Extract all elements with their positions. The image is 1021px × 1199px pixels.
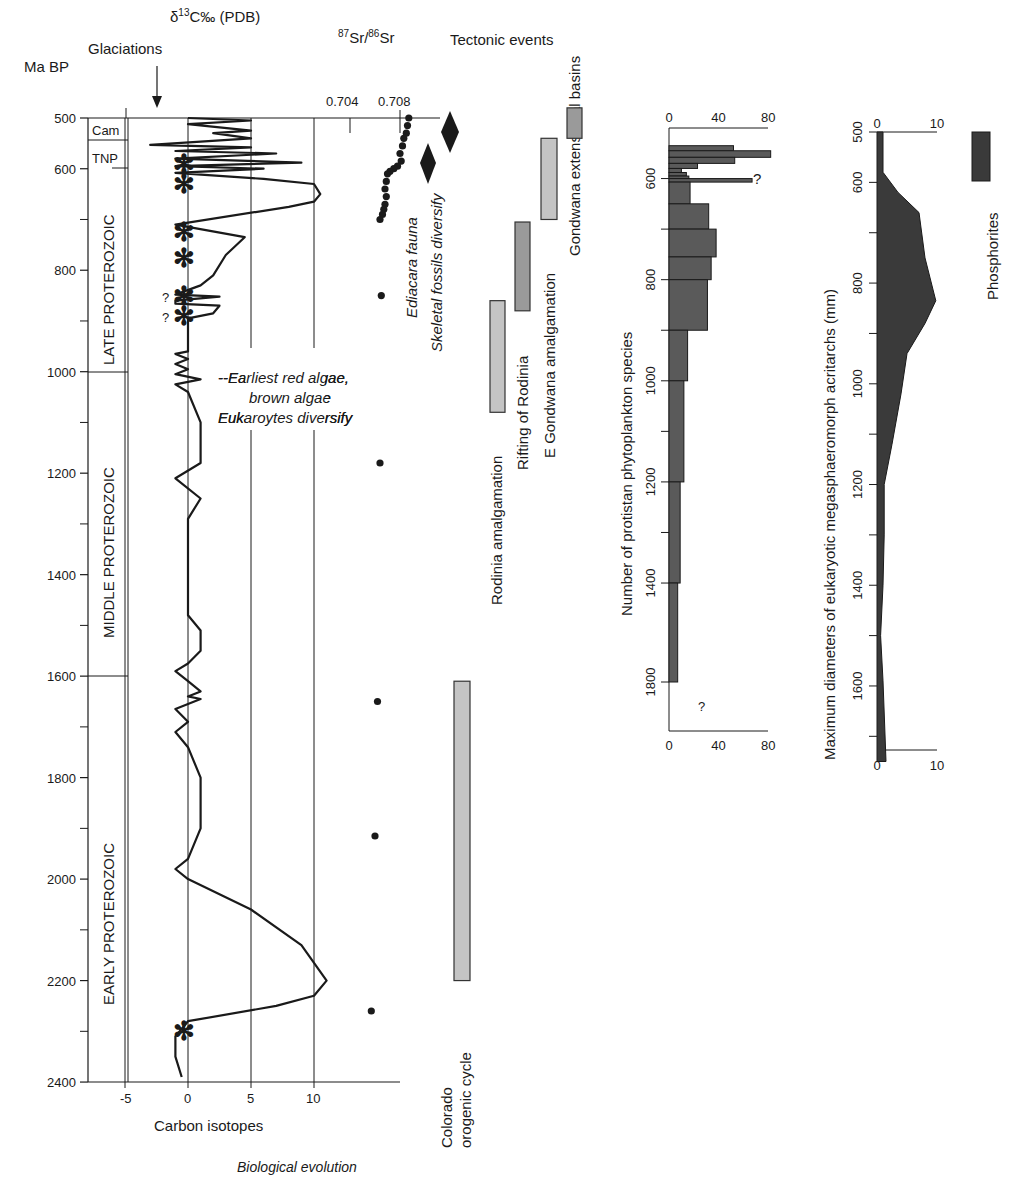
sr-data-point (404, 122, 411, 129)
glaciations-arrow-icon (152, 66, 162, 108)
glaciation-icon: ✻ (173, 243, 195, 273)
sr-data-point (368, 1007, 375, 1014)
y-tick-label: 2200 (47, 974, 76, 989)
acritarch-area (877, 132, 936, 762)
tectonic-label-e-gondwana: E Gondwana amalgamation (541, 273, 558, 458)
glaciation-icon: ✻ (173, 1016, 195, 1046)
x-tick: 0 (184, 1091, 191, 1106)
phyto-axis-title: Number of protistan phytoplankton specie… (618, 332, 635, 616)
tectonic-label-rodinia-amalgamation: Rodinia amalgamation (488, 456, 505, 605)
phyto-bar (669, 168, 681, 172)
acritarch-x-tick: 10 (930, 116, 944, 131)
tectonic-label-rifting-rodinia: Rifting of Rodinia (514, 355, 531, 470)
tectonic-label-colorado-2: orogenic cycle (457, 1052, 474, 1148)
acritarch-y-tick-label: 1200 (850, 470, 865, 499)
x-tick: 10 (306, 1091, 320, 1106)
x-tick: 5 (247, 1091, 254, 1106)
d13c-title: δ13C‰ (PDB) (170, 7, 260, 25)
sr-data-point (400, 135, 407, 142)
tectonic-bar (490, 301, 505, 413)
sr-data-point (374, 698, 381, 705)
phyto-bar (669, 583, 678, 682)
sr-data-point (384, 170, 391, 177)
y-tick-label: 1400 (47, 568, 76, 583)
acritarch-y-tick-label: 1000 (850, 369, 865, 398)
phyto-y-tick-label: 1400 (643, 569, 658, 598)
era-late-proterozoic: LATE PROTEROZOIC (100, 214, 117, 365)
phyto-x-tick: 40 (711, 110, 725, 125)
phyto-x-tick: 0 (665, 110, 672, 125)
phyto-x-tick: 0 (665, 738, 672, 753)
era-early-proterozoic: EARLY PROTEROZOIC (100, 843, 117, 1005)
phyto-y-tick-label: 600 (643, 168, 658, 190)
sr-tick: 0.708 (378, 94, 411, 109)
acritarch-y-tick-label: 600 (850, 172, 865, 194)
phyto-bar (669, 204, 709, 229)
acritarch-y-tick-label: 1600 (850, 671, 865, 700)
phyto-bar (669, 280, 707, 331)
tectonic-bar (567, 108, 582, 138)
phyto-bar (669, 179, 752, 183)
acritarch-y-tick-label: 1400 (850, 571, 865, 600)
phyto-y-tick-label: 1800 (643, 668, 658, 697)
sr-data-point (378, 292, 385, 299)
skeletal-label: Skeletal fossils diversify (428, 192, 445, 352)
annotation-text: brown algae (249, 389, 331, 406)
phyto-bar (669, 257, 711, 280)
x-axis-title: Carbon isotopes (154, 1117, 263, 1134)
phyto-x-tick: 80 (761, 110, 775, 125)
sr-data-point (383, 178, 390, 185)
sr-data-point (381, 185, 388, 192)
acritarch-y-tick-label: 800 (850, 272, 865, 294)
y-tick-label: 2000 (47, 872, 76, 887)
acritarch-axis-title: Maximum diameters of eukaryotic megaspha… (821, 289, 838, 760)
phyto-bar (669, 151, 771, 158)
tectonic-bar (541, 138, 557, 219)
tectonic-bar (454, 681, 470, 980)
tectonic-bar (515, 222, 530, 311)
sr-data-point (396, 150, 403, 157)
era-tnp: TNP (92, 151, 118, 166)
footer-caption: Biological evolution (237, 1159, 357, 1175)
era-middle-proterozoic: MIDDLE PROTEROZOIC (100, 467, 117, 638)
phyto-y-tick-label: 1200 (643, 467, 658, 496)
svg-text:87Sr/86Sr: 87Sr/86Sr (338, 28, 394, 46)
y-axis-title: Ma BP (24, 58, 69, 75)
tectonic-label-colorado-1: Colorado (438, 1087, 455, 1148)
y-tick-label: 1600 (47, 669, 76, 684)
phyto-bar (669, 182, 690, 204)
phyto-x-tick: 40 (711, 738, 725, 753)
phyto-bar (669, 157, 735, 163)
tectonic-events-title: Tectonic events (450, 31, 553, 48)
era-cam: Cam (92, 123, 119, 138)
phyto-x-tick: 80 (761, 738, 775, 753)
glaciation-icon: ✻ (173, 301, 195, 331)
acritarch-x-tick: 10 (930, 758, 944, 773)
sr-data-point (399, 142, 406, 149)
phyto-bar (669, 229, 716, 257)
annotation-text: --Earliest red algae, (218, 369, 349, 386)
sr-tick: 0.704 (326, 94, 359, 109)
sr-title: 87Sr/86Sr (338, 28, 394, 46)
phyto-bar (669, 381, 684, 482)
y-tick-label: 600 (54, 162, 76, 177)
x-tick: -5 (120, 1091, 132, 1106)
y-tick-label: 500 (54, 111, 76, 126)
acritarch-y-tick-label: 500 (850, 121, 865, 143)
skeletal-diamond-icon (441, 111, 459, 153)
y-tick-label: 2400 (47, 1075, 76, 1090)
acritarch-x-tick: 0 (873, 116, 880, 131)
sr-data-point (405, 114, 412, 121)
phyto-bar (669, 482, 680, 583)
y-tick-label: 1000 (47, 365, 76, 380)
tectonic-label-gondwana-extensional: Gondwana extensional basins (566, 56, 583, 256)
annotation-text: Eukaroytes diversify (218, 409, 354, 426)
ediacara-diamond-icon (420, 143, 436, 184)
phyto-bar (669, 163, 698, 168)
phyto-bar (669, 172, 686, 176)
ediacara-label: Ediacara fauna (403, 217, 420, 318)
phyto-question: ? (698, 699, 705, 714)
phosphorites-label: Phosphorites (984, 212, 1001, 300)
chart-canvas: Ma BP Glaciations δ13C‰ (PDB) 87Sr/86Sr … (0, 0, 1021, 1199)
sr-data-point (376, 216, 383, 223)
